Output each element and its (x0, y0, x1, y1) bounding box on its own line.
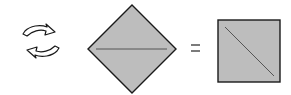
diamond-shape (88, 5, 176, 93)
origami-diagram (0, 0, 291, 95)
equals-sign (191, 45, 200, 51)
square-shape (218, 20, 280, 82)
turn-over-arrows-icon (23, 24, 59, 58)
